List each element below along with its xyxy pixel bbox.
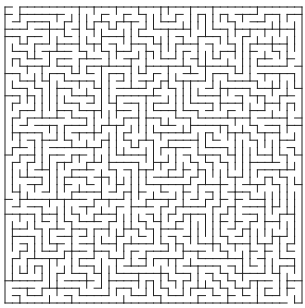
- maze-board: [0, 0, 305, 308]
- maze-wall-path: [5, 7, 302, 303]
- maze-walls: [5, 7, 302, 303]
